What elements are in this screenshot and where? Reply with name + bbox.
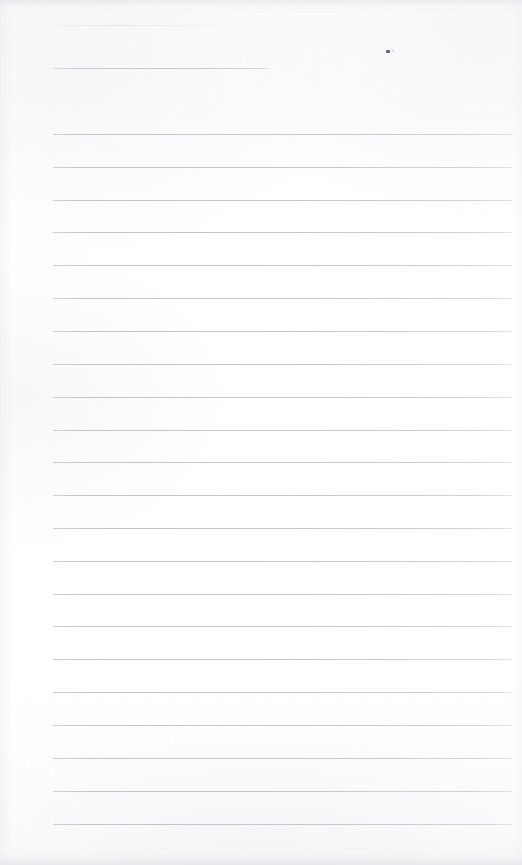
ruled-line (53, 824, 512, 825)
ruled-line (53, 298, 512, 299)
ruled-line (53, 200, 512, 201)
ink-speck-mark (386, 50, 390, 53)
ruled-line (53, 462, 512, 463)
ruled-line (53, 495, 512, 496)
page-edge-shadow-bottom (0, 843, 522, 865)
page-edge-shadow-top (0, 0, 522, 14)
ruled-line (53, 134, 512, 135)
header-faint-rule (55, 25, 215, 26)
ruled-line (53, 725, 512, 726)
ruled-line (53, 692, 512, 693)
page-edge-shadow-left (0, 0, 12, 865)
header-underline-rule (53, 68, 270, 69)
scanned-page (0, 0, 522, 865)
page-edge-shadow-right (512, 0, 522, 865)
ruled-line (53, 758, 512, 759)
ruled-line (53, 561, 512, 562)
ruled-line (53, 331, 512, 332)
scan-grain-texture (0, 0, 522, 865)
ruled-line (53, 626, 512, 627)
ruled-line (53, 791, 512, 792)
ruled-line (53, 397, 512, 398)
ruled-line (53, 430, 512, 431)
ruled-line (53, 232, 512, 233)
ruled-line (53, 265, 512, 266)
ruled-line (53, 167, 512, 168)
ruled-line (53, 528, 512, 529)
ruled-line (53, 594, 512, 595)
ruled-line (53, 364, 512, 365)
ruled-line (53, 659, 512, 660)
